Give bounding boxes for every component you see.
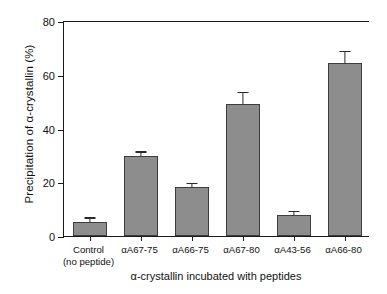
y-axis-tick-label: 20 <box>43 177 55 189</box>
y-axis-tick-label: 40 <box>43 124 55 136</box>
x-axis-tick-label: Control(no peptide) <box>63 244 114 267</box>
error-bar-cap <box>186 183 197 184</box>
bar-group <box>124 22 158 236</box>
x-label-line-1: Control <box>73 244 104 255</box>
bar-series <box>64 22 369 236</box>
error-bar <box>89 219 90 222</box>
x-axis-tick <box>141 236 142 241</box>
x-axis-tick <box>345 236 346 241</box>
x-label-line-1: αA66-75 <box>172 244 208 255</box>
x-axis-tick <box>294 236 295 241</box>
x-label-line-1: αA43-56 <box>274 244 310 255</box>
bar-group <box>175 22 209 236</box>
y-axis-title: Precipitation of α-crystallin (%) <box>23 19 35 229</box>
x-axis-title: α-crystallin incubated with peptides <box>63 270 369 282</box>
error-bar-cap <box>237 92 248 93</box>
bar-group <box>73 22 107 236</box>
bar <box>175 187 209 236</box>
bar <box>73 222 107 236</box>
bar <box>328 63 362 236</box>
y-axis-tick-label: 0 <box>49 231 55 243</box>
x-axis-tick <box>90 236 91 241</box>
x-label-line-1: αA67-75 <box>121 244 157 255</box>
x-axis-tick-label: αA66-80 <box>325 244 361 256</box>
error-bar-cap <box>135 151 146 152</box>
x-axis-tick <box>243 236 244 241</box>
bar-group <box>277 22 311 236</box>
error-bar <box>293 212 294 215</box>
bar <box>226 104 260 236</box>
error-bar <box>140 153 141 157</box>
x-axis-tick-label: αA67-75 <box>121 244 157 256</box>
bar <box>124 156 158 236</box>
bar-chart-figure: Precipitation of α-crystallin (%) 020406… <box>0 0 387 294</box>
x-axis-tick-label: αA67-80 <box>223 244 259 256</box>
plot-area: 020406080 <box>63 22 369 237</box>
bar-group <box>226 22 260 236</box>
y-axis-tick-label: 80 <box>43 16 55 28</box>
error-bar-cap <box>288 211 299 212</box>
bar-group <box>328 22 362 236</box>
x-label-line-2: (no peptide) <box>63 256 114 268</box>
error-bar-cap <box>339 51 350 52</box>
bar <box>277 215 311 236</box>
y-axis-tick <box>58 237 64 238</box>
error-bar <box>242 93 243 104</box>
x-label-line-1: αA67-80 <box>223 244 259 255</box>
error-bar <box>191 184 192 187</box>
error-bar <box>344 52 345 64</box>
x-label-line-1: αA66-80 <box>325 244 361 255</box>
y-axis-tick-label: 60 <box>43 70 55 82</box>
x-axis-tick-label: αA66-75 <box>172 244 208 256</box>
error-bar-cap <box>84 217 95 218</box>
x-axis-tick <box>192 236 193 241</box>
x-axis-tick-label: αA43-56 <box>274 244 310 256</box>
